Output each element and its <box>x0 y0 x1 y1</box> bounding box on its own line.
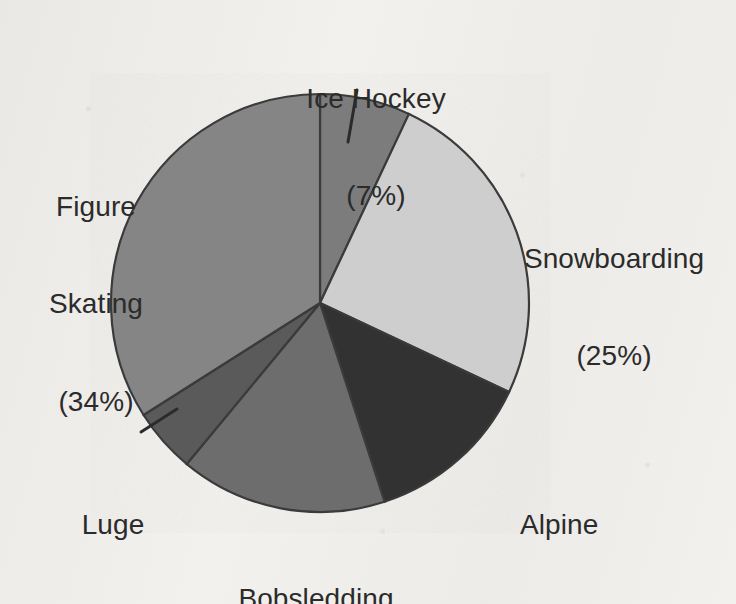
pie-label-figure-skating-name-line1: Figure <box>8 191 184 223</box>
pie-label-figure-skating: Figure Skating (34%) <box>8 126 184 483</box>
pie-label-luge-name: Luge <box>48 509 178 541</box>
pie-label-snowboarding: Snowboarding (25%) <box>500 178 728 438</box>
pie-label-figure-skating-percent: (34%) <box>8 386 184 418</box>
pie-chart: Ice Hockey (7%) Snowboarding (25%) Alpin… <box>0 0 736 604</box>
pie-label-alpine-skiing: Alpine Skiing (13%) <box>520 444 700 604</box>
pie-label-snowboarding-name: Snowboarding <box>500 243 728 275</box>
pie-label-snowboarding-percent: (25%) <box>500 340 728 372</box>
pie-label-bobsledding-name: Bobsledding <box>196 583 436 604</box>
pie-label-bobsledding: Bobsledding (16%) <box>196 518 436 604</box>
pie-label-ice-hockey-name: Ice Hockey <box>276 83 476 115</box>
pie-label-alpine-skiing-name-line1: Alpine <box>520 509 700 541</box>
pie-label-figure-skating-name-line2: Skating <box>8 288 184 320</box>
pie-label-ice-hockey-percent: (7%) <box>276 180 476 212</box>
pie-label-ice-hockey: Ice Hockey (7%) <box>276 18 476 278</box>
